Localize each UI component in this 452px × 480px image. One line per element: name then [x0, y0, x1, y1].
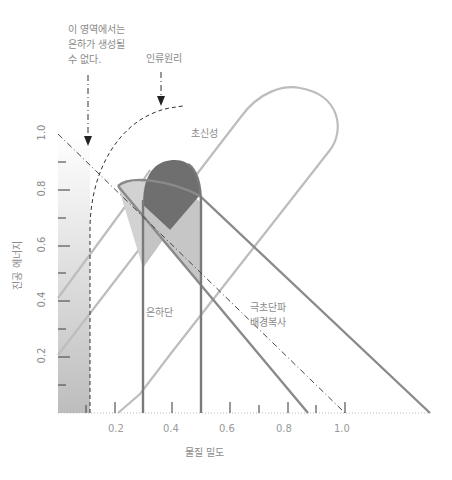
- no-galaxy-region: [58, 135, 90, 413]
- cmb-label-line2: 배경복사: [250, 315, 286, 330]
- x-tick-label: 0.2: [108, 423, 124, 434]
- y-axis-label: 진공 에너지: [9, 241, 24, 289]
- x-tick-label: 0.6: [219, 423, 235, 434]
- x-tick-label: 0.8: [276, 423, 292, 434]
- cosmology-constraint-diagram: 이 영역에서는 은하가 생성될 수 없다. 인류원리 초신성 은하단 극초단파 …: [0, 0, 452, 480]
- no-galaxy-note-line1: 이 영역에서는: [68, 22, 125, 37]
- y-tick-label: 0.8: [36, 181, 47, 197]
- galaxy-cluster-label: 은하단: [146, 305, 173, 320]
- no-galaxy-note-line2: 은하가 생성될: [68, 37, 125, 52]
- anthropic-arrow-icon: [157, 96, 165, 106]
- cmb-label-line1: 극초단파: [250, 300, 286, 315]
- y-tick-label: 0.2: [36, 348, 47, 364]
- y-tick-label: 1.0: [36, 125, 47, 141]
- diagram-canvas: [0, 0, 452, 480]
- no-galaxy-boundary: [90, 106, 183, 413]
- x-tick-label: 1.0: [334, 423, 350, 434]
- y-tick-label: 0.4: [36, 292, 47, 308]
- supernova-label: 초신성: [191, 126, 218, 141]
- y-tick-label: 0.6: [36, 237, 47, 253]
- x-axis-label: 물질 밀도: [185, 445, 224, 460]
- x-tick-label: 0.4: [163, 423, 179, 434]
- no-galaxy-note-line3: 수 없다.: [68, 52, 101, 67]
- anthropic-principle-label: 인류원리: [146, 51, 182, 66]
